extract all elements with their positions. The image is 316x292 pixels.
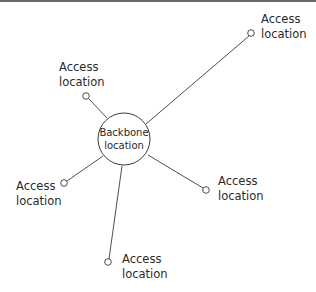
access-node-upper-left: [83, 93, 90, 100]
access-node-right: [203, 187, 210, 194]
link-left: [67, 156, 103, 181]
access-label-upper-left: Access location: [59, 60, 105, 90]
access-label-bottom: Access location: [122, 252, 168, 282]
access-label-top-right: Access location: [261, 12, 307, 42]
access-label-line1: Access: [261, 12, 307, 27]
access-label-line2: location: [16, 194, 62, 209]
star-topology-diagram: [0, 0, 316, 292]
access-label-line1: Access: [16, 179, 62, 194]
link-bottom: [109, 166, 122, 259]
access-label-line2: location: [59, 75, 105, 90]
hub-label: Backbone location: [97, 126, 151, 152]
access-label-left: Access location: [16, 179, 62, 209]
access-label-line2: location: [122, 267, 168, 282]
link-right: [148, 155, 203, 188]
access-label-line2: location: [218, 189, 264, 204]
hub-label-line2: location: [97, 139, 151, 152]
link-upper-left: [89, 99, 107, 118]
access-node-top-right: [248, 30, 255, 37]
access-node-bottom: [105, 259, 112, 266]
access-label-line2: location: [261, 27, 307, 42]
access-node-left: [61, 180, 68, 187]
hub-label-line1: Backbone: [97, 126, 151, 139]
access-label-line1: Access: [122, 252, 168, 267]
access-label-line1: Access: [59, 60, 105, 75]
link-top-right: [146, 36, 249, 124]
access-label-right: Access location: [218, 174, 264, 204]
access-label-line1: Access: [218, 174, 264, 189]
